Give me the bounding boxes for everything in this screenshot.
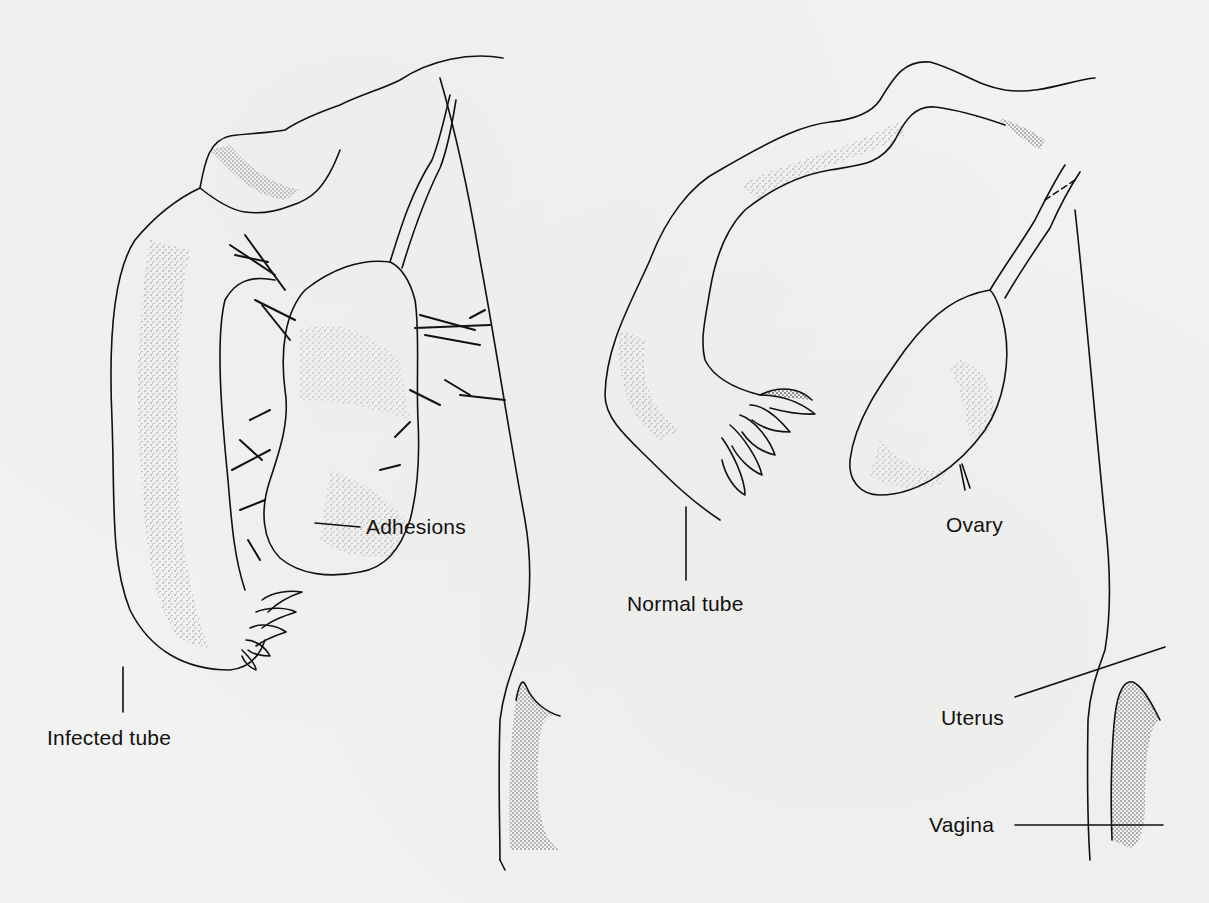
label-adhesions: Adhesions (366, 516, 466, 537)
label-vagina: Vagina (929, 814, 994, 835)
right-uterine-wall (1075, 210, 1110, 860)
right-ovary-drawing (850, 165, 1080, 495)
label-normal-tube: Normal tube (627, 593, 744, 614)
label-infected-tube: Infected tube (47, 727, 171, 748)
normal-tube-drawing (605, 62, 1095, 520)
label-ovary: Ovary (946, 514, 1003, 535)
label-uterus: Uterus (941, 707, 1004, 728)
left-vagina-drawing (509, 682, 560, 850)
anatomy-drawing (0, 0, 1209, 903)
